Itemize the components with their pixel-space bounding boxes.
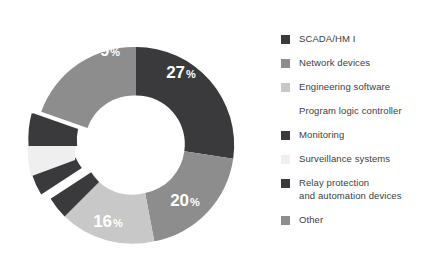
legend-swatch-icon xyxy=(281,83,290,92)
legend-item-label: Surveillance systems xyxy=(299,153,390,166)
legend-item-engineering-software[interactable]: Engineering software xyxy=(281,81,437,94)
chart-legend: SCADA/HM I Network devices Engineering s… xyxy=(281,33,437,238)
legend-swatch-icon xyxy=(281,179,290,188)
legend-item-other[interactable]: Other xyxy=(281,214,437,227)
legend-swatch-icon xyxy=(281,131,290,140)
legend-item-label: Network devices xyxy=(299,57,370,70)
legend-swatch-icon xyxy=(281,107,290,116)
legend-item-network-devices[interactable]: Network devices xyxy=(281,57,437,70)
legend-item-monitoring[interactable]: Monitoring xyxy=(281,129,437,142)
legend-item-surveillance-systems[interactable]: Surveillance systems xyxy=(281,153,437,166)
slice-label-other: 9% xyxy=(100,41,120,60)
legend-item-scada-hmi[interactable]: SCADA/HM I xyxy=(281,33,437,46)
legend-item-relay-protection[interactable]: Relay protection and automation devices xyxy=(281,177,437,202)
donut-chart: 27% 20% 16% 4% 4% 4% 9% xyxy=(0,0,272,269)
legend-swatch-icon xyxy=(281,216,290,225)
chart-page: 27% 20% 16% 4% 4% 4% 9% xyxy=(0,0,439,269)
donut-chart-svg: 27% 20% 16% 4% 4% 4% 9% xyxy=(0,0,272,269)
legend-swatch-icon xyxy=(281,59,290,68)
legend-item-label: Monitoring xyxy=(299,129,344,142)
legend-swatch-icon xyxy=(281,35,290,44)
legend-item-label: SCADA/HM I xyxy=(299,33,355,46)
legend-swatch-icon xyxy=(281,155,290,164)
legend-item-label: Relay protection and automation devices xyxy=(299,177,402,202)
legend-item-label: Engineering software xyxy=(299,81,390,94)
legend-item-label: Other xyxy=(299,214,323,227)
legend-item-program-logic-controller[interactable]: Program logic controller xyxy=(281,105,437,118)
slice-scada-hmi[interactable] xyxy=(136,47,234,159)
slice-label-monitoring: 4% xyxy=(47,45,74,71)
legend-item-label: Program logic controller xyxy=(299,105,402,118)
